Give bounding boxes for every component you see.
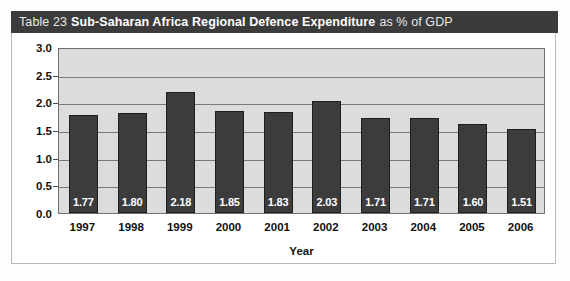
bar-value-label: 1.60 xyxy=(459,196,486,208)
y-axis-tick-label: 2.0 xyxy=(22,97,52,109)
table-number: Table 23 xyxy=(19,15,67,29)
x-axis-tick-label: 2006 xyxy=(497,221,545,233)
bar: 1.71 xyxy=(361,118,390,213)
title-suffix: as % of GDP xyxy=(379,15,452,29)
x-axis-tick-label: 1999 xyxy=(156,221,204,233)
x-axis-tick-label: 2000 xyxy=(204,221,252,233)
bar: 1.60 xyxy=(458,124,487,213)
page-title: Sub-Saharan Africa Regional Defence Expe… xyxy=(71,15,375,29)
bar-value-label: 2.03 xyxy=(313,196,340,208)
bar-value-label: 1.83 xyxy=(265,196,292,208)
bar-value-label: 1.51 xyxy=(508,196,535,208)
y-axis-tick-label: 0.5 xyxy=(22,180,52,192)
x-axis-tick-label: 2001 xyxy=(253,221,301,233)
bar-value-label: 1.77 xyxy=(70,196,97,208)
bar-value-label: 1.80 xyxy=(119,196,146,208)
y-axis-tick-label: 1.5 xyxy=(22,125,52,137)
x-axis-tick-label: 1998 xyxy=(107,221,155,233)
plot-area: 1.771.802.181.851.832.031.711.711.601.51 xyxy=(58,48,545,214)
x-axis-tick-label: 2003 xyxy=(351,221,399,233)
table-title-bar: Table 23 Sub-Saharan Africa Regional Def… xyxy=(11,11,558,33)
x-axis-tick-label: 2005 xyxy=(448,221,496,233)
bar: 2.03 xyxy=(312,101,341,213)
x-axis-tick-label: 1997 xyxy=(58,221,106,233)
bar-value-label: 1.85 xyxy=(216,196,243,208)
y-axis-tick-label: 2.5 xyxy=(22,70,52,82)
bar-value-label: 1.71 xyxy=(362,196,389,208)
y-axis-tick-label: 3.0 xyxy=(22,42,52,54)
x-axis-title: Year xyxy=(58,245,545,257)
figure-container: Table 23 Sub-Saharan Africa Regional Def… xyxy=(0,0,570,281)
bar: 2.18 xyxy=(166,92,195,213)
y-axis-tick-label: 1.0 xyxy=(22,153,52,165)
x-axis-tick-label: 2004 xyxy=(399,221,447,233)
bar: 1.51 xyxy=(507,129,536,213)
x-axis-tick-label: 2002 xyxy=(302,221,350,233)
y-axis-tick-label: 0.0 xyxy=(22,208,52,220)
bar: 1.71 xyxy=(410,118,439,213)
bar: 1.85 xyxy=(215,111,244,213)
bar: 1.77 xyxy=(69,115,98,213)
bar: 1.83 xyxy=(264,112,293,213)
bar-series: 1.771.802.181.851.832.031.711.711.601.51 xyxy=(59,49,544,213)
bar-value-label: 2.18 xyxy=(167,196,194,208)
bar-value-label: 1.71 xyxy=(411,196,438,208)
bar: 1.80 xyxy=(118,113,147,213)
